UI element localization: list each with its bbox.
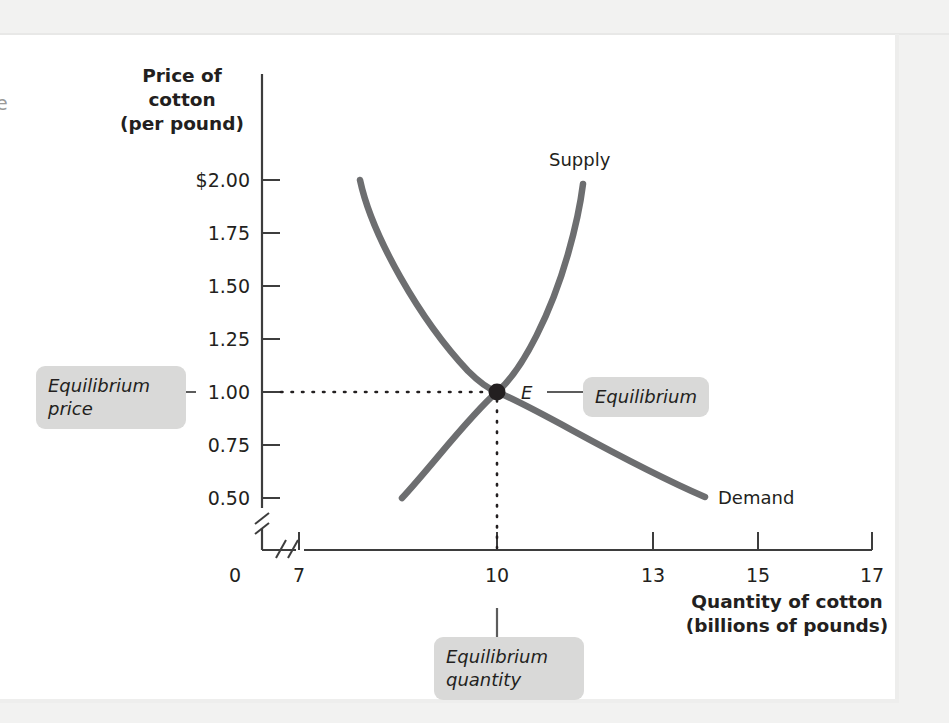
y-tick-label-0.75: 0.75 <box>146 436 250 455</box>
x-tick-label-15: 15 <box>728 566 788 585</box>
figure-container: e <box>0 0 949 723</box>
supply-curve <box>402 184 583 498</box>
equilibrium-point-marker <box>489 384 506 401</box>
equilibrium-price-callout: Equilibrium price <box>36 366 186 429</box>
y-axis-title-line-1: Price of <box>108 64 256 88</box>
x-tick-label-7: 7 <box>269 566 329 585</box>
y-tick-label-1.25: 1.25 <box>146 330 250 349</box>
equilibrium-point-label: E <box>521 384 532 402</box>
y-axis-title-line-3: (per pound) <box>108 112 256 136</box>
y-tick-label-1.75: 1.75 <box>146 224 250 243</box>
y-axis-title: Price of cotton (per pound) <box>108 64 256 136</box>
y-tick-label-2.00: $2.00 <box>146 171 250 190</box>
x-tick-label-10: 10 <box>467 566 527 585</box>
x-axis-title: Quantity of cotton (billions of pounds) <box>672 590 902 638</box>
y-axis-break-mark-1 <box>255 513 269 524</box>
demand-curve-label: Demand <box>718 489 794 507</box>
x-tick-label-17: 17 <box>842 566 902 585</box>
x-tick-label-13: 13 <box>623 566 683 585</box>
x-axis-title-line-2: (billions of pounds) <box>672 614 902 638</box>
y-axis-title-line-2: cotton <box>108 88 256 112</box>
equilibrium-callout: Equilibrium <box>583 377 709 417</box>
equilibrium-quantity-callout: Equilibrium quantity <box>434 637 584 700</box>
y-tick-label-0.50: 0.50 <box>146 489 250 508</box>
x-axis-title-line-1: Quantity of cotton <box>672 590 902 614</box>
y-tick-label-1.50: 1.50 <box>146 277 250 296</box>
x-tick-label-0: 0 <box>205 566 265 585</box>
supply-curve-label: Supply <box>549 151 610 169</box>
